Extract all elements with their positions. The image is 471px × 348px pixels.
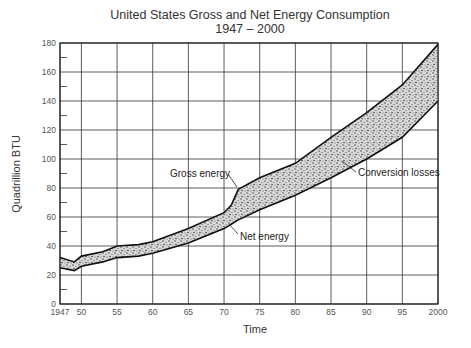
svg-text:2000: 2000: [429, 307, 448, 317]
svg-text:140: 140: [42, 96, 56, 106]
x-axis-label: Time: [243, 323, 267, 335]
y-axis-label: Quadrillion BTU: [10, 135, 22, 213]
svg-text:85: 85: [326, 307, 336, 317]
svg-text:80: 80: [47, 183, 57, 193]
svg-text:50: 50: [77, 307, 87, 317]
svg-text:Gross energy: Gross energy: [170, 168, 230, 179]
svg-text:90: 90: [362, 307, 372, 317]
svg-text:80: 80: [291, 307, 301, 317]
svg-text:160: 160: [42, 67, 56, 77]
svg-text:20: 20: [47, 270, 57, 280]
svg-text:Net energy: Net energy: [240, 231, 289, 242]
svg-text:70: 70: [219, 307, 229, 317]
svg-text:40: 40: [47, 241, 57, 251]
svg-text:65: 65: [184, 307, 194, 317]
svg-text:Conversion losses: Conversion losses: [358, 167, 440, 178]
svg-text:60: 60: [47, 212, 57, 222]
svg-text:60: 60: [148, 307, 158, 317]
annotation-gross-energy: Gross energy: [170, 168, 237, 187]
svg-text:55: 55: [112, 307, 122, 317]
svg-text:100: 100: [42, 154, 56, 164]
chart-plot: 1947505560657075808590952000020406080100…: [0, 0, 471, 348]
svg-text:0: 0: [51, 299, 56, 309]
svg-text:120: 120: [42, 125, 56, 135]
svg-text:95: 95: [398, 307, 408, 317]
svg-text:180: 180: [42, 38, 56, 48]
svg-text:75: 75: [255, 307, 265, 317]
annotation-net-energy: Net energy: [229, 224, 289, 242]
